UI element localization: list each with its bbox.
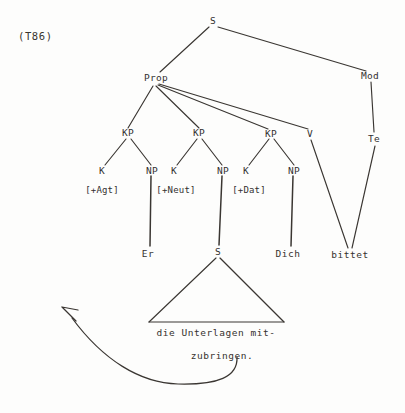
node-k-1: K — [99, 166, 105, 176]
edge-s-mod — [218, 27, 366, 71]
edge-v-bittet — [311, 140, 348, 248]
feature-dat: [+Dat] — [232, 185, 266, 195]
edge-prop-v — [159, 84, 308, 129]
figure-canvas: (T86) — [0, 0, 405, 413]
edge-prop-kp3 — [158, 85, 268, 129]
edge-mod-te — [371, 82, 374, 132]
triangle-right-side — [220, 258, 284, 322]
node-kp-2: KP — [193, 128, 205, 138]
node-np-1: NP — [146, 166, 158, 176]
node-embedded-s: S — [215, 247, 221, 257]
edge-te-bittet — [352, 146, 375, 248]
edge-s-prop — [160, 27, 209, 72]
edge-np3-dich — [291, 176, 293, 246]
node-k-2: K — [171, 166, 177, 176]
edge-kp3-np3 — [274, 139, 294, 165]
node-mod: Mod — [361, 71, 379, 81]
edge-kp3-k3 — [249, 139, 269, 165]
edge-np2-s — [219, 176, 222, 245]
triangle-left-side — [149, 258, 216, 322]
terminal-dich: Dich — [275, 249, 300, 259]
embedded-clause-line-2: zubringen. — [191, 350, 254, 361]
node-v: V — [307, 129, 313, 139]
edge-kp1-k1 — [105, 139, 126, 165]
node-kp-1: KP — [122, 128, 134, 138]
feature-agt: [+Agt] — [85, 185, 119, 195]
node-np-3: NP — [288, 166, 300, 176]
movement-arrow-head — [62, 307, 78, 321]
node-k-3: K — [243, 166, 249, 176]
terminal-er: Er — [142, 249, 155, 259]
feature-neut: [+Neut] — [156, 185, 195, 195]
node-te: Te — [368, 134, 380, 144]
node-root-s: S — [210, 16, 216, 26]
node-kp-3: KP — [265, 129, 277, 139]
edge-np1-er — [150, 176, 151, 246]
edge-prop-kp1 — [128, 86, 153, 128]
node-prop: Prop — [144, 73, 168, 83]
terminal-bittet: bittet — [331, 250, 369, 260]
embedded-clause-line-1: die Unterlagen mit- — [156, 327, 275, 338]
node-np-2: NP — [217, 166, 229, 176]
edge-kp2-k2 — [177, 139, 197, 165]
edge-kp1-np1 — [131, 139, 151, 165]
edge-kp2-np2 — [202, 139, 222, 165]
